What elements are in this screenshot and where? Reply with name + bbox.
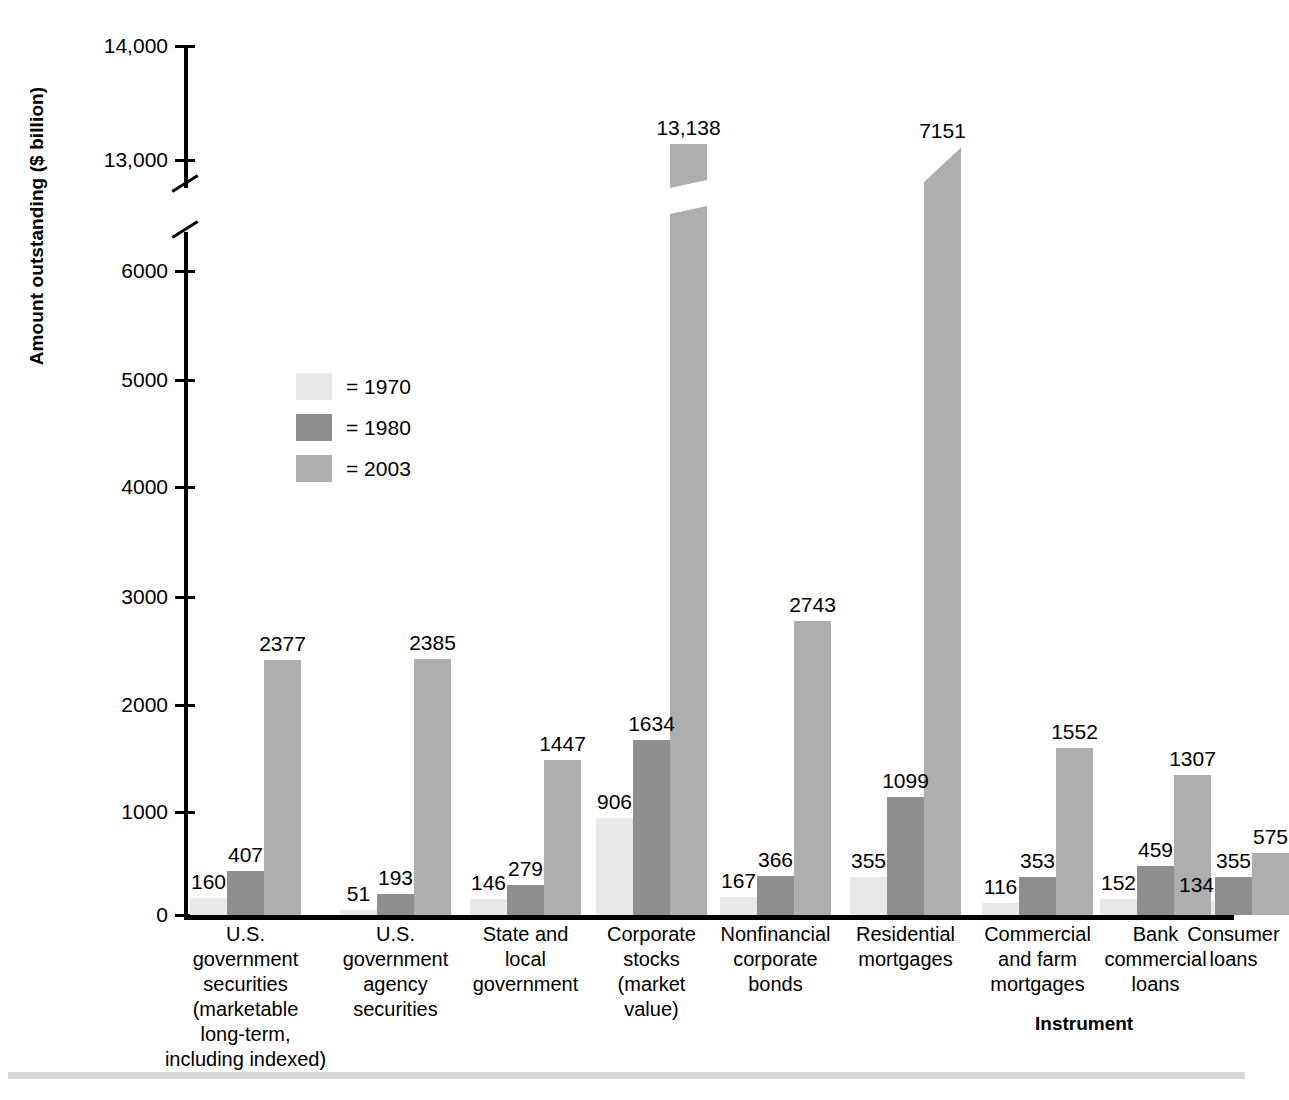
category-label-line: agency xyxy=(343,972,449,997)
category-label-line: securities xyxy=(165,972,326,997)
category-label-line: Nonfinancial xyxy=(720,922,830,947)
category-label-0: U.S.governmentsecurities(marketablelong-… xyxy=(165,922,326,1072)
y-tick-label: 0 xyxy=(58,904,168,925)
legend-item-0: = 1970 xyxy=(296,370,411,403)
category-label-line: long-term, xyxy=(165,1022,326,1047)
legend-item-1: = 1980 xyxy=(296,411,411,444)
bar-value-label: 1552 xyxy=(1051,721,1098,742)
category-label-line: and farm xyxy=(984,947,1091,972)
bar-value-label: 2377 xyxy=(259,633,306,654)
legend-swatch xyxy=(296,373,332,400)
category-label-line: government xyxy=(343,947,449,972)
category-label-line: local xyxy=(473,947,579,972)
category-label-2: State andlocalgovernment xyxy=(473,922,579,997)
category-label-line: value) xyxy=(607,997,696,1022)
category-label-4: Nonfinancialcorporatebonds xyxy=(720,922,830,997)
bar-value-label: 355 xyxy=(851,850,886,871)
category-label-1: U.S.governmentagencysecurities xyxy=(343,922,449,1022)
bar-value-label: 1634 xyxy=(628,713,675,734)
legend-label: = 1970 xyxy=(346,375,411,399)
bar-2003-1 xyxy=(414,659,451,915)
category-label-line: (market xyxy=(607,972,696,997)
category-label-line: corporate xyxy=(720,947,830,972)
bar-1970-1 xyxy=(340,910,377,915)
bar-value-label: 167 xyxy=(721,870,756,891)
bar-value-label: 366 xyxy=(758,849,793,870)
category-label-line: Corporate xyxy=(607,922,696,947)
category-label-line: stocks xyxy=(607,947,696,972)
category-label-3: Corporatestocks(marketvalue) xyxy=(607,922,696,1022)
bar-1970-0 xyxy=(190,898,227,915)
category-label-5: Residentialmortgages xyxy=(856,922,955,972)
bar-axis-break xyxy=(669,180,708,214)
bar-value-label: 1447 xyxy=(539,733,586,754)
bar-2003-3 xyxy=(670,144,707,915)
bar-1980-4 xyxy=(757,876,794,915)
bar-2003-2 xyxy=(544,760,581,915)
bar-1980-2 xyxy=(507,885,544,915)
category-label-line: bonds xyxy=(720,972,830,997)
category-label-line: State and xyxy=(473,922,579,947)
bar-value-label: 459 xyxy=(1138,839,1173,860)
bar-value-label: 1099 xyxy=(882,770,929,791)
category-label-line: Commercial xyxy=(984,922,1091,947)
bar-1970-7 xyxy=(1100,899,1137,915)
bar-1980-7 xyxy=(1137,866,1174,915)
legend-label: = 2003 xyxy=(346,457,411,481)
category-label-line: mortgages xyxy=(856,947,955,972)
bar-value-label: 7151 xyxy=(919,120,966,141)
page-bottom-rule xyxy=(8,1072,1245,1079)
y-tick-label: 1000 xyxy=(58,801,168,822)
bar-2003-6 xyxy=(1056,748,1093,915)
bar-value-label: 355 xyxy=(1216,850,1251,871)
category-label-line: Residential xyxy=(856,922,955,947)
bar-1970-2 xyxy=(470,899,507,915)
category-label-line: U.S. xyxy=(165,922,326,947)
bar-2003-5 xyxy=(924,147,961,915)
legend-swatch xyxy=(296,455,332,482)
y-tick-label: 2000 xyxy=(58,694,168,715)
category-label-line: loans xyxy=(1187,947,1279,972)
y-tick-label: 3000 xyxy=(58,586,168,607)
bar-1970-6 xyxy=(982,903,1019,915)
bar-value-label: 2385 xyxy=(409,632,456,653)
bar-value-label: 134 xyxy=(1179,874,1214,895)
y-tick-label: 4000 xyxy=(58,476,168,497)
y-axis-tick-labels: 14,00013,0006000500040003000200010000 xyxy=(58,0,168,1100)
y-tick-label: 14,000 xyxy=(58,35,168,56)
bar-2003-8 xyxy=(1252,853,1289,915)
bar-value-label: 13,138 xyxy=(656,117,720,138)
bar-value-label: 407 xyxy=(228,844,263,865)
category-label-line: mortgages xyxy=(984,972,1091,997)
bar-1970-5 xyxy=(850,877,887,915)
legend-item-2: = 2003 xyxy=(296,452,411,485)
bar-value-label: 906 xyxy=(597,791,632,812)
legend-label: = 1980 xyxy=(346,416,411,440)
y-tick-label: 13,000 xyxy=(58,149,168,170)
bar-value-label: 279 xyxy=(508,858,543,879)
category-label-6: Commercialand farmmortgages xyxy=(984,922,1091,997)
bar-1970-4 xyxy=(720,897,757,915)
bar-1980-8 xyxy=(1215,877,1252,915)
category-label-8: Consumerloans xyxy=(1187,922,1279,972)
category-label-line: Consumer xyxy=(1187,922,1279,947)
bar-1980-3 xyxy=(633,740,670,915)
y-axis-title: Amount outstanding ($ billion) xyxy=(26,26,48,426)
bar-1980-1 xyxy=(377,894,414,915)
y-tick-label: 6000 xyxy=(58,260,168,281)
bar-value-label: 160 xyxy=(191,871,226,892)
category-label-line: government xyxy=(165,947,326,972)
legend-swatch xyxy=(296,414,332,441)
bar-1980-0 xyxy=(227,871,264,915)
bar-value-label: 1307 xyxy=(1169,748,1216,769)
x-axis-title: Instrument xyxy=(1035,1013,1133,1035)
category-label-line: (marketable xyxy=(165,997,326,1022)
category-label-line: U.S. xyxy=(343,922,449,947)
bar-value-label: 152 xyxy=(1101,872,1136,893)
bar-value-label: 2743 xyxy=(789,594,836,615)
category-label-line: government xyxy=(473,972,579,997)
bar-value-label: 146 xyxy=(471,872,506,893)
category-label-line: including indexed) xyxy=(165,1047,326,1072)
bar-1980-6 xyxy=(1019,877,1056,915)
